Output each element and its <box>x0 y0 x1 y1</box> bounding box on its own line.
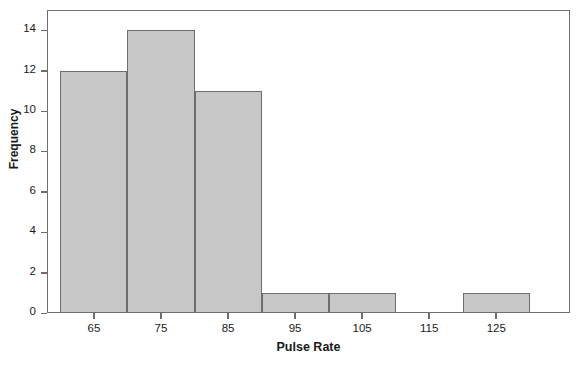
x-axis-tick-mark <box>428 313 430 319</box>
y-axis-tick-label: 8 <box>30 143 36 155</box>
x-axis-tick-label: 75 <box>136 322 186 334</box>
y-axis-tick-mark <box>41 232 47 234</box>
y-axis-tick-mark <box>41 191 47 193</box>
x-axis-tick-mark <box>294 313 296 319</box>
x-axis-tick-label: 125 <box>471 322 521 334</box>
x-axis-tick-label: 105 <box>337 322 387 334</box>
y-axis-tick-label: 2 <box>30 265 36 277</box>
x-axis-tick-label: 115 <box>404 322 454 334</box>
y-axis-tick-label: 12 <box>23 63 36 75</box>
histogram-chart: 0246810121465758595105115125 Frequency P… <box>0 0 582 367</box>
y-axis-tick-label: 4 <box>30 224 36 236</box>
x-axis-tick-label: 65 <box>69 322 119 334</box>
histogram-bar <box>127 30 194 313</box>
x-axis-tick-mark <box>361 313 363 319</box>
histogram-bar <box>262 293 329 313</box>
y-axis-tick-mark <box>41 313 47 315</box>
x-axis-tick-mark <box>495 313 497 319</box>
histogram-bar <box>463 293 530 313</box>
y-axis-tick-mark <box>41 30 47 32</box>
x-axis-label: Pulse Rate <box>47 340 570 354</box>
x-axis-tick-label: 95 <box>270 322 320 334</box>
y-axis-tick-label: 0 <box>30 305 36 317</box>
histogram-bar <box>60 71 127 313</box>
y-axis-tick-label: 10 <box>23 103 36 115</box>
x-axis-tick-mark <box>160 313 162 319</box>
x-axis-tick-mark <box>93 313 95 319</box>
x-axis-tick-label: 85 <box>203 322 253 334</box>
y-axis-tick-label: 6 <box>30 184 36 196</box>
y-axis-label: Frequency <box>7 89 21 189</box>
y-axis-tick-label: 14 <box>23 22 36 34</box>
y-axis-tick-mark <box>41 70 47 72</box>
x-axis-tick-mark <box>227 313 229 319</box>
histogram-bar <box>329 293 396 313</box>
histogram-bar <box>195 91 262 313</box>
y-axis-tick-mark <box>41 111 47 113</box>
y-axis-tick-mark <box>41 151 47 153</box>
plot-area: 0246810121465758595105115125 <box>0 0 582 367</box>
y-axis-tick-mark <box>41 272 47 274</box>
